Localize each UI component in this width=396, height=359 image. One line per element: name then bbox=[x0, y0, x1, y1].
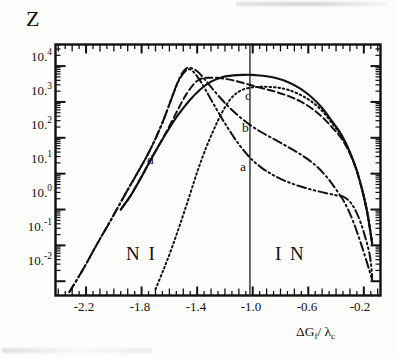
curve-curve-d bbox=[156, 87, 373, 289]
curve-curve-a bbox=[69, 69, 372, 292]
curve-group bbox=[69, 68, 372, 292]
plot-canvas bbox=[0, 0, 396, 359]
plot-frame bbox=[56, 45, 381, 296]
curve-curve-b bbox=[69, 68, 372, 292]
x-axis-ticks bbox=[58, 45, 377, 296]
y-axis-ticks bbox=[56, 45, 381, 282]
curve-solid bbox=[121, 75, 372, 244]
figure-panel: Z ΔGf/ λc 10.4 10.3 10.2 10.1 10.0 10.-1… bbox=[0, 0, 396, 359]
curve-curve-c bbox=[121, 78, 372, 244]
